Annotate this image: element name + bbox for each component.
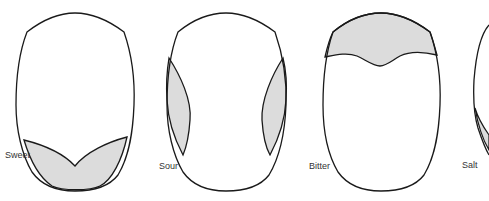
tongue-sweet [16,13,134,191]
tongue-salt [474,25,489,155]
tongue-taste-diagram [0,0,489,201]
salt-region [475,108,489,150]
label-sweet: Sweet [5,150,30,160]
label-sour: Sour [159,161,178,171]
sour-region-right [262,58,286,155]
tongue-bitter [323,13,440,191]
label-bitter: Bitter [309,161,330,171]
bitter-region [325,13,437,66]
tongue-sour [167,13,287,191]
sour-region-left [167,58,191,155]
label-salt: Salt [462,160,478,170]
